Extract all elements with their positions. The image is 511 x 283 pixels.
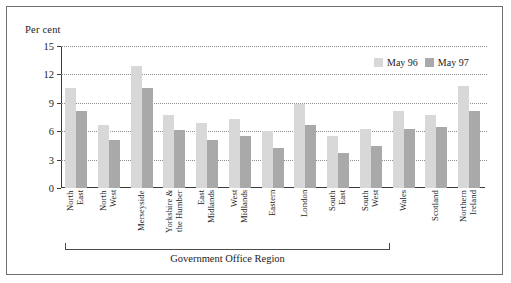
x-tick-label-text: North West <box>99 190 118 238</box>
y-tick-label: 3 <box>49 154 54 165</box>
bar <box>371 146 382 188</box>
bar <box>76 111 87 188</box>
x-axis-category-labels: North EastNorth WestMerseysideYorkshire … <box>61 190 485 238</box>
bar <box>109 140 120 188</box>
y-tick-label: 9 <box>49 97 54 108</box>
bar <box>294 104 305 188</box>
x-tick-label-text: London <box>300 190 310 238</box>
bar <box>338 153 349 188</box>
bar <box>207 140 218 188</box>
x-tick-label: East Midlands <box>196 190 218 238</box>
x-tick-label: North East <box>65 190 87 238</box>
bar <box>196 123 207 188</box>
x-tick-label-text: South West <box>361 190 380 238</box>
bar-group <box>196 46 218 188</box>
bar <box>327 136 338 188</box>
y-tick-label: 15 <box>44 41 55 52</box>
legend-swatch <box>425 58 434 67</box>
bar <box>469 111 480 188</box>
legend-label: May 97 <box>438 57 469 68</box>
bar <box>273 148 284 188</box>
x-tick-label-text: Northern Ireland <box>459 190 478 238</box>
x-tick-label-text: North East <box>66 190 85 238</box>
bar <box>305 125 316 188</box>
legend-item: May 97 <box>425 57 469 68</box>
x-tick-label-text: Yorkshire & the Humber <box>165 190 184 238</box>
bar <box>240 136 251 188</box>
bar-group <box>65 46 87 188</box>
bar <box>404 129 415 188</box>
chart-legend: May 96May 97 <box>374 57 469 68</box>
x-tick-label: Merseyside <box>131 190 153 238</box>
bar-group <box>262 46 284 188</box>
x-tick-label: South East <box>327 190 349 238</box>
y-tick-label: 0 <box>49 183 54 194</box>
bar-group <box>327 46 349 188</box>
y-tick-mark <box>57 188 61 189</box>
bar <box>174 130 185 188</box>
x-axis-title: Government Office Region <box>65 253 390 264</box>
bar <box>131 66 142 188</box>
y-tick-label: 12 <box>44 69 55 80</box>
bar <box>436 127 447 188</box>
legend-label: May 96 <box>387 57 418 68</box>
bar <box>262 131 273 188</box>
x-tick-label: West Midlands <box>229 190 251 238</box>
bar <box>98 125 109 188</box>
bar <box>393 111 404 188</box>
bar-group <box>163 46 185 188</box>
bar <box>229 119 240 188</box>
bar <box>458 86 469 188</box>
bar-group <box>131 46 153 188</box>
bar <box>65 88 76 188</box>
x-tick-label-text: Merseyside <box>137 190 147 238</box>
x-tick-label-text: Wales <box>399 190 409 238</box>
x-tick-label: Northern Ireland <box>458 190 480 238</box>
y-tick-label: 6 <box>49 126 54 137</box>
x-tick-label: South West <box>360 190 382 238</box>
legend-swatch <box>374 58 383 67</box>
x-tick-label-text: West Midlands <box>230 190 249 238</box>
x-tick-label: Eastern <box>262 190 284 238</box>
x-tick-label: Scotland <box>425 190 447 238</box>
bar <box>425 115 436 188</box>
chart-figure: Per cent 03691215 North EastNorth WestMe… <box>6 6 503 275</box>
x-tick-label: North West <box>98 190 120 238</box>
x-tick-label-text: East Midlands <box>197 190 216 238</box>
bar <box>142 88 153 188</box>
x-tick-label: Wales <box>393 190 415 238</box>
bar <box>163 115 174 188</box>
bar-group <box>294 46 316 188</box>
x-tick-label: Yorkshire & the Humber <box>163 190 185 238</box>
legend-item: May 96 <box>374 57 418 68</box>
y-axis-title: Per cent <box>25 24 61 35</box>
x-tick-label-text: South East <box>328 190 347 238</box>
bar <box>360 129 371 188</box>
bar-group <box>98 46 120 188</box>
x-tick-label: London <box>294 190 316 238</box>
x-tick-label-text: Scotland <box>431 190 441 238</box>
x-tick-label-text: Eastern <box>268 190 278 238</box>
bar-group <box>229 46 251 188</box>
category-bracket <box>65 243 390 250</box>
